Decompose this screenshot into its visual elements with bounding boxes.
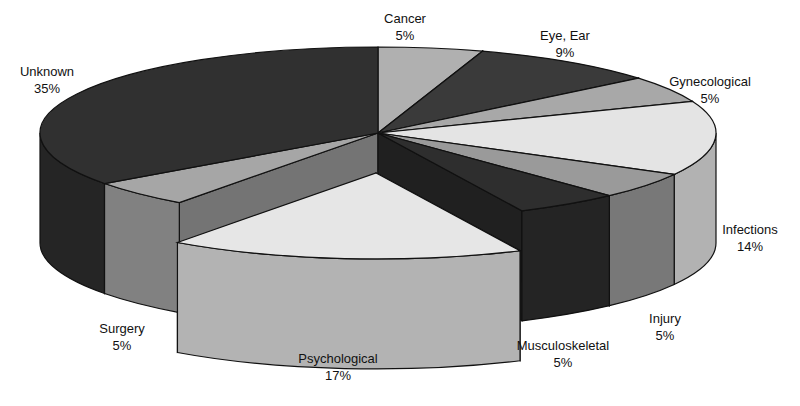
label-surgery: Surgery5%: [99, 320, 145, 354]
label-psychological: Psychological17%: [298, 350, 378, 384]
label-eye-ear: Eye, Ear9%: [540, 27, 590, 61]
slice-outer-wall: [105, 184, 180, 313]
label-cancer: Cancer5%: [384, 10, 426, 44]
slice-outer-wall: [522, 196, 609, 321]
label-infections: Infections14%: [722, 221, 778, 255]
label-musculoskeletal: Musculoskeletal5%: [517, 337, 610, 371]
label-injury: Injury5%: [649, 310, 681, 344]
slice-outer-wall: [609, 174, 674, 305]
label-unknown: Unknown35%: [20, 63, 74, 97]
label-gynecological: Gynecological5%: [669, 73, 751, 107]
